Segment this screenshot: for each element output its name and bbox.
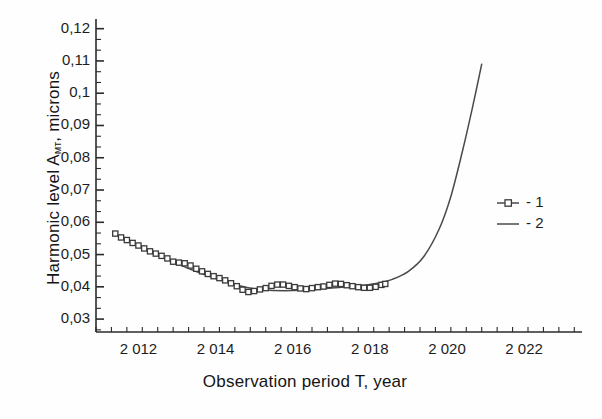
data-series [113, 64, 482, 294]
y-tick-label: 0,05 [34, 245, 90, 262]
x-tick-label: 2 012 [103, 340, 173, 357]
y-tick-label: 0,06 [34, 212, 90, 229]
x-tick-label: 2 020 [412, 340, 482, 357]
legend-entry-label: - 2 [526, 214, 544, 231]
y-tick-label: 0,12 [34, 19, 90, 36]
y-tick-label: 0,07 [34, 180, 90, 197]
y-tick-label: 0,08 [34, 148, 90, 165]
legend-symbols [497, 200, 519, 224]
y-tick-label: 0,04 [34, 277, 90, 294]
x-tick-label: 2 014 [181, 340, 251, 357]
y-tick-label: 0,1 [34, 83, 90, 100]
x-tick-label: 2 022 [489, 340, 559, 357]
y-tick-label: 0,03 [34, 309, 90, 326]
x-tick-label: 2 018 [335, 340, 405, 357]
legend-entry-label: - 1 [526, 193, 544, 210]
y-tick-label: 0,11 [34, 51, 90, 68]
x-tick-label: 2 016 [258, 340, 328, 357]
y-tick-label: 0,09 [34, 115, 90, 132]
x-axis-title: Observation period T, year [140, 372, 470, 392]
chart-figure: Harmonic level Aмт, microns Observation … [0, 0, 602, 419]
